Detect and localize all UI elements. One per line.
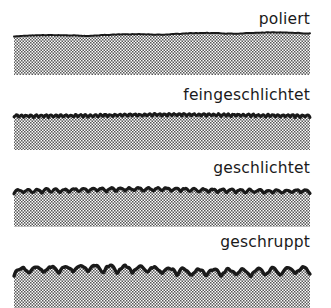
specimen-profile-geschruppt xyxy=(0,255,331,308)
specimen-label-poliert: poliert xyxy=(259,12,310,28)
surface-contour-line xyxy=(14,113,310,117)
profile-drawing xyxy=(0,255,331,308)
specimen-label-geschlichtet: geschlichtet xyxy=(213,161,310,177)
specimen-label-feingeschlichtet: feingeschlichtet xyxy=(183,88,310,104)
material-body-hatch xyxy=(14,32,310,75)
specimen-profile-geschlichtet xyxy=(0,180,331,227)
material-body-hatch xyxy=(14,113,310,150)
profile-drawing xyxy=(0,30,331,75)
profile-drawing xyxy=(0,107,331,150)
specimen-profile-feingeschlichtet xyxy=(0,107,331,150)
specimen-label-geschruppt: geschruppt xyxy=(220,235,310,251)
profile-drawing xyxy=(0,180,331,227)
specimen-profile-poliert xyxy=(0,30,331,75)
